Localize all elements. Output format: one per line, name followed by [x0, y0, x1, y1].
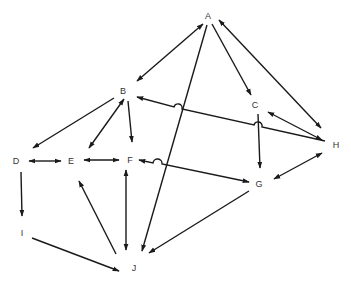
- edges-layer: [0, 0, 351, 289]
- edge-b-d: [33, 98, 114, 148]
- edge-h-b: [137, 97, 325, 141]
- edge-f-g: [139, 159, 249, 182]
- edge-a-h: [219, 20, 321, 128]
- node-c: C: [252, 101, 259, 110]
- node-i: I: [21, 229, 24, 238]
- edge-b-f: [128, 101, 132, 142]
- edge-j-e: [79, 181, 116, 254]
- edge-h-g: [274, 153, 322, 179]
- node-b: B: [120, 87, 126, 96]
- edge-a-j: [142, 25, 207, 251]
- edge-d-i: [21, 172, 22, 216]
- node-e: E: [68, 157, 74, 166]
- edge-a-c: [212, 24, 251, 95]
- edge-b-e: [89, 99, 124, 148]
- edge-c-h: [268, 112, 322, 140]
- edge-g-j: [149, 191, 249, 253]
- node-j: J: [132, 264, 137, 273]
- node-d: D: [13, 157, 20, 166]
- node-a: A: [205, 12, 211, 21]
- graph-diagram: A B C D E F G H I J: [0, 0, 351, 289]
- node-h: H: [333, 141, 340, 150]
- node-g: G: [255, 180, 262, 189]
- node-f: F: [127, 156, 133, 165]
- edge-i-j: [32, 238, 119, 271]
